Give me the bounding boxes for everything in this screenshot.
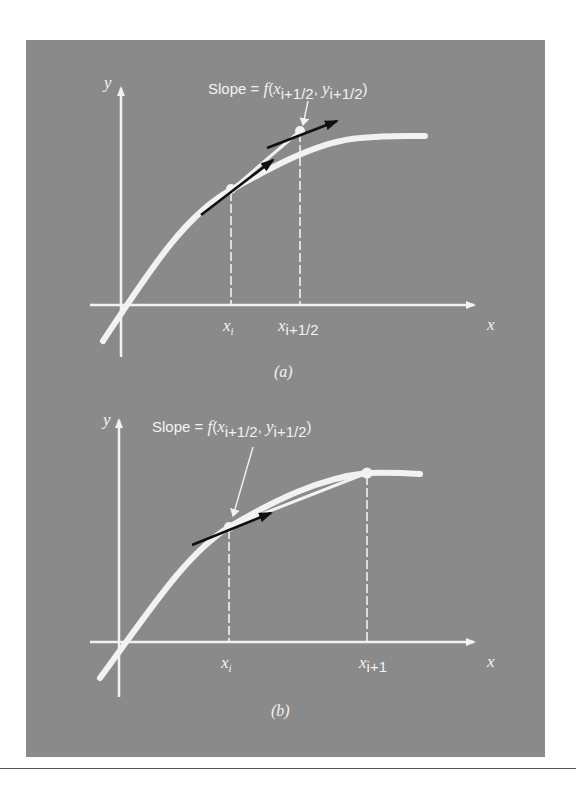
tick-label-xi: xi xyxy=(220,653,232,674)
solution-curve xyxy=(100,473,420,678)
slope-label: Slope = f(xi+1/2, yi+1/2) xyxy=(152,417,312,440)
label-pointer xyxy=(303,101,308,125)
label-pointer xyxy=(233,447,253,516)
slope-arrow-start xyxy=(201,160,273,215)
tick-label-xi: xi xyxy=(222,316,234,337)
tick-label-xmid: xi+1/2 xyxy=(277,316,319,338)
caption-a: (a) xyxy=(274,363,293,381)
tick-label-xi1: xi+1 xyxy=(358,653,387,675)
x-axis-label: x xyxy=(486,652,495,671)
caption-b: (b) xyxy=(271,702,290,720)
slope-label: Slope = f(xi+1/2, yi+1/2) xyxy=(208,79,368,102)
y-axis-label: y xyxy=(102,73,112,92)
full-step-line xyxy=(229,473,367,527)
midpoint-method-diagram: y x Slope = f(xi+1/2, yi+1/2) xi xi+1/2 … xyxy=(0,0,576,797)
slope-arrow-midpoint xyxy=(192,513,271,545)
y-axis-label: y xyxy=(101,410,111,429)
point-xi1 xyxy=(362,468,373,479)
x-axis-label: x xyxy=(486,315,495,334)
panel-b: y x Slope = f(xi+1/2, yi+1/2) xi xi+1 (b… xyxy=(90,410,495,720)
panel-a: y x Slope = f(xi+1/2, yi+1/2) xi xi+1/2 … xyxy=(90,73,495,381)
